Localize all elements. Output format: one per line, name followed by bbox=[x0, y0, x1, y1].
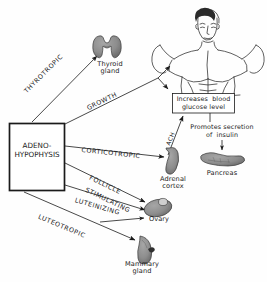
insulin-annotation-text: Promotes secretion of insulin bbox=[183, 124, 261, 140]
arrow-thyrotropic bbox=[32, 56, 97, 122]
glucose-box-text: Increases blood glucose level bbox=[173, 96, 234, 112]
thyroid-gland-illustration bbox=[93, 36, 121, 58]
arrow-growth-to-glucose bbox=[158, 78, 168, 89]
adenohypophysis-label: ADENO- HYPOPHYSIS bbox=[9, 141, 65, 160]
adrenal-cortex-illustration bbox=[166, 148, 179, 175]
label-pancreas: Pancreas bbox=[203, 170, 241, 177]
label-ovary: Ovary bbox=[146, 216, 172, 223]
human-figure-illustration bbox=[152, 8, 264, 97]
arrow-growth-to-body bbox=[158, 66, 170, 78]
label-adrenal-cortex: Adrenal cortex bbox=[156, 176, 190, 190]
diagram-canvas: ADENO- HYPOPHYSIS THYROTROPIC GROWTH COR… bbox=[0, 0, 267, 282]
arrow-luteotropic-to-ovary bbox=[100, 218, 144, 222]
pancreas-illustration bbox=[201, 153, 245, 166]
label-mammary-gland: Mammary gland bbox=[118, 261, 166, 275]
label-thyroid-gland: Thyroid gland bbox=[92, 61, 128, 75]
